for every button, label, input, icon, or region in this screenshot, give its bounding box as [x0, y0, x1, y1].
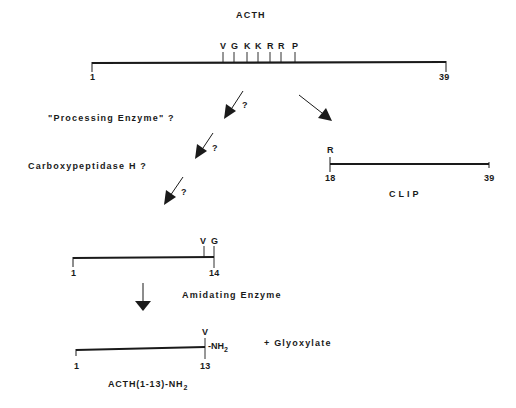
residue-label: K: [244, 42, 251, 51]
product-residue-label: V: [202, 328, 208, 337]
acth-processing-diagram: ACTH V G K K R R P 1 39 ? ? ? "Processin…: [0, 0, 516, 408]
intermediate-chain: [73, 246, 214, 268]
product-name-label: ACTH(1-13)-NH2: [108, 380, 187, 389]
amide-group-label: -NH2: [208, 342, 228, 351]
residue-label: R: [267, 42, 274, 51]
acth-start-number: 1: [90, 73, 95, 82]
acth-end-number: 39: [439, 73, 450, 82]
product-end-number: 13: [200, 362, 211, 371]
diagram-graphics: [0, 0, 516, 408]
arrow-to-clip: [299, 95, 332, 121]
product-chain: [76, 338, 205, 359]
intermediate-end-number: 14: [209, 269, 220, 278]
residue-label: P: [292, 42, 298, 51]
title-acth: ACTH: [236, 11, 266, 20]
product-name-subscript: 2: [183, 384, 187, 391]
clip-chain: [330, 157, 489, 172]
clip-residue-label: R: [327, 146, 334, 155]
product-name-text: ACTH(1-13)-NH: [108, 379, 183, 389]
carboxypeptidase-label: Carboxypeptidase H ?: [28, 162, 147, 171]
intermediate-start-number: 1: [71, 269, 76, 278]
amide-subscript: 2: [224, 346, 228, 353]
glyoxylate-label: + Glyoxylate: [264, 339, 332, 348]
product-start-number: 1: [74, 362, 79, 371]
clip-end-number: 39: [484, 174, 495, 183]
residue-label: R: [278, 42, 285, 51]
residue-label: K: [255, 42, 262, 51]
clip-label: CLIP: [389, 190, 422, 199]
residue-label: V: [220, 42, 226, 51]
uncertain-mark: ?: [181, 188, 187, 197]
residue-label: V: [200, 237, 206, 246]
arrow-processing-enzyme: [224, 91, 243, 119]
uncertain-mark: ?: [212, 144, 218, 153]
acth-chain: [92, 52, 446, 72]
clip-start-number: 18: [325, 174, 336, 183]
residue-label: G: [211, 237, 218, 246]
uncertain-mark: ?: [242, 101, 248, 110]
amide-group-text: -NH: [208, 341, 224, 351]
residue-label: G: [231, 42, 238, 51]
arrow-carboxypeptidase: [195, 133, 213, 159]
arrow-amidating-enzyme: [135, 283, 151, 311]
amidating-enzyme-label: Amidating Enzyme: [182, 291, 282, 300]
processing-enzyme-label: "Processing Enzyme" ?: [48, 114, 175, 123]
